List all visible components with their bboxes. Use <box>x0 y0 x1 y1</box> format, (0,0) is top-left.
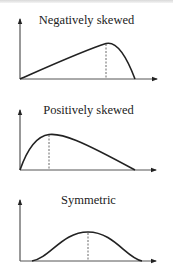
bell-curve <box>32 232 142 261</box>
negatively-skewed-diagram <box>20 19 157 79</box>
positively-skewed-diagram <box>20 110 156 170</box>
symmetric-diagram <box>20 200 156 261</box>
skew-curve <box>20 43 135 79</box>
skew-curve <box>20 134 135 170</box>
skewness-diagrams <box>0 0 173 279</box>
